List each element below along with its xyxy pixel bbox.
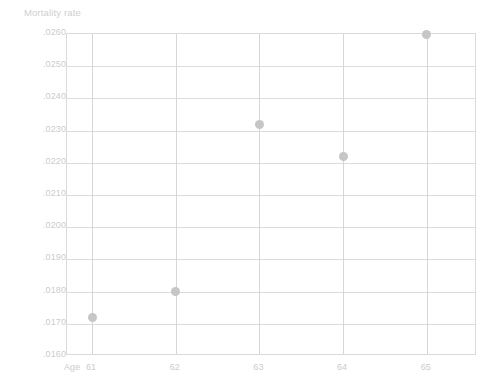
gridline-vertical <box>176 34 177 354</box>
y-axis-tick-label: .0250 <box>10 59 66 69</box>
gridline-horizontal <box>67 66 475 67</box>
plot-area <box>66 33 476 355</box>
y-axis-tick-label: .0240 <box>10 91 66 101</box>
y-axis-tick-label: .0260 <box>10 27 66 37</box>
gridline-horizontal <box>67 292 475 293</box>
data-point <box>171 287 180 296</box>
data-point <box>255 120 264 129</box>
data-point <box>422 30 431 39</box>
y-axis-tick-label: .0230 <box>10 124 66 134</box>
x-axis-tick-label: 64 <box>322 362 362 372</box>
y-axis-tick-label: .0200 <box>10 220 66 230</box>
data-point <box>339 152 348 161</box>
gridline-horizontal <box>67 324 475 325</box>
gridline-horizontal <box>67 259 475 260</box>
x-axis-label: Age <box>64 362 80 372</box>
mortality-rate-scatter-chart: Mortality rate .0260.0250.0240.0230.0220… <box>0 0 504 392</box>
gridline-vertical <box>259 34 260 354</box>
gridline-horizontal <box>67 163 475 164</box>
gridline-horizontal <box>67 227 475 228</box>
data-point <box>88 313 97 322</box>
gridline-horizontal <box>67 195 475 196</box>
y-axis-tick-label: .0180 <box>10 285 66 295</box>
x-axis-tick-label: 63 <box>238 362 278 372</box>
y-axis-tick-label: .0210 <box>10 188 66 198</box>
y-axis-tick-label: .0220 <box>10 156 66 166</box>
gridline-horizontal <box>67 98 475 99</box>
x-axis-tick-label: 62 <box>155 362 195 372</box>
gridline-horizontal <box>67 131 475 132</box>
gridline-vertical <box>92 34 93 354</box>
gridline-vertical <box>427 34 428 354</box>
y-axis-tick-label: .0160 <box>10 349 66 359</box>
y-axis-tick-label: .0190 <box>10 252 66 262</box>
chart-title: Mortality rate <box>24 7 81 18</box>
gridline-vertical <box>343 34 344 354</box>
x-axis-tick-label: 65 <box>406 362 446 372</box>
y-axis-tick-label: .0170 <box>10 317 66 327</box>
